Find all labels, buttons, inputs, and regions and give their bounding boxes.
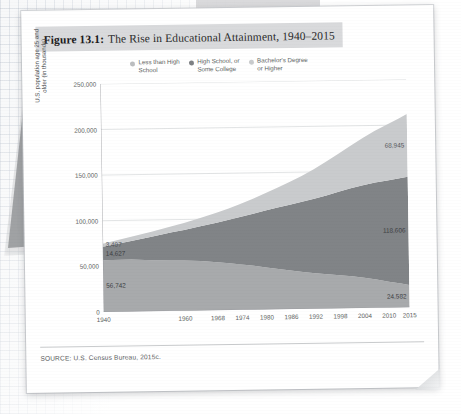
y-tick-label: 100,000: [75, 217, 98, 224]
x-tick-label: 2015: [403, 311, 417, 318]
x-tick-label: 2004: [358, 312, 372, 319]
x-tick-label: 1974: [235, 314, 249, 321]
plot-canvas: 3,40714,62756,74268,945118,60624,582: [100, 79, 409, 312]
stacked-area-plot: [100, 79, 409, 312]
x-tick-label: 1986: [284, 313, 298, 320]
x-tick-label: 1940: [97, 316, 111, 323]
scanned-page: Figure 13.1: The Rise in Educational Att…: [21, 5, 439, 393]
x-tick-label: 2010: [382, 312, 396, 319]
data-value-label: 24,582: [387, 292, 407, 299]
x-tick-label: 1998: [333, 312, 347, 319]
x-tick-label: 1980: [260, 313, 274, 320]
data-value-label: 3,407: [106, 241, 122, 248]
y-tick-label: 0: [96, 308, 100, 315]
y-axis-label: U.S. population age 25 and older (in tho…: [32, 1, 49, 131]
y-axis-ticks: 050,000100,000150,000200,000250,000: [54, 84, 103, 313]
x-tick-label: 1960: [178, 315, 192, 322]
y-tick-label: 150,000: [75, 172, 98, 179]
y-tick-label: 250,000: [73, 80, 96, 87]
y-tick-label: 50,000: [80, 263, 99, 270]
gridline: [101, 125, 407, 130]
data-value-label: 68,945: [385, 141, 405, 148]
y-tick-label: 200,000: [74, 126, 97, 133]
x-tick-label: 1992: [309, 313, 323, 320]
chart-area: U.S. population age 25 and older (in tho…: [21, 5, 439, 393]
data-value-label: 56,742: [106, 282, 126, 289]
data-value-label: 118,606: [383, 227, 406, 234]
gridline: [100, 79, 406, 84]
x-axis-ticks: 1940196019681974198019861992199820042010…: [104, 311, 410, 328]
x-tick-label: 1968: [211, 314, 225, 321]
data-value-label: 14,627: [106, 249, 126, 256]
